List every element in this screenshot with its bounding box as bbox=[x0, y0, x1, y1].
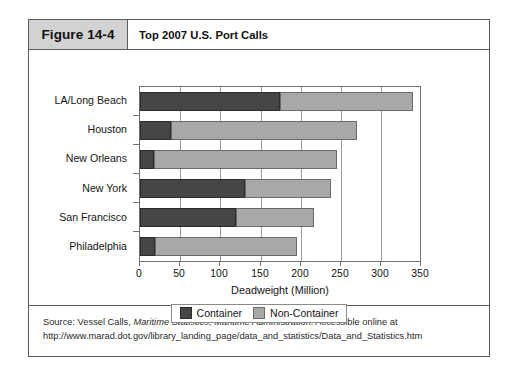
bar-segment-container bbox=[140, 237, 155, 256]
bar-segment-non-container bbox=[171, 121, 357, 140]
bar-row-new-orleans bbox=[140, 150, 420, 169]
bar-segment-non-container bbox=[245, 179, 331, 198]
y-axis-label-3: New York bbox=[29, 179, 134, 198]
y-axis-label-4: San Francisco bbox=[29, 208, 134, 227]
bar-rows bbox=[140, 87, 420, 261]
plot-frame bbox=[139, 86, 421, 261]
bar-segment-non-container bbox=[236, 208, 314, 227]
y-axis-label-0: LA/Long Beach bbox=[29, 91, 134, 110]
y-axis-labels: LA/Long Beach Houston New Orleans New Yo… bbox=[29, 86, 134, 261]
figure-title: Top 2007 U.S. Port Calls bbox=[128, 20, 489, 49]
bar-row-philadelphia bbox=[140, 237, 420, 256]
y-axis-label-1: Houston bbox=[29, 120, 134, 139]
legend-label-container: Container bbox=[197, 307, 243, 319]
legend-swatch-non-container-icon bbox=[253, 307, 265, 319]
bar-row-la-long-beach bbox=[140, 92, 420, 111]
figure-header: Figure 14-4 Top 2007 U.S. Port Calls bbox=[29, 20, 489, 50]
bar-segment-container bbox=[140, 121, 171, 140]
legend-item-non-container: Non-Container bbox=[253, 307, 338, 319]
y-axis-label-2: New Orleans bbox=[29, 149, 134, 168]
legend-item-container: Container bbox=[180, 307, 243, 319]
bar-row-new-york bbox=[140, 179, 420, 198]
bar-segment-container bbox=[140, 92, 280, 111]
bar-segment-non-container bbox=[154, 150, 337, 169]
chart-legend: Container Non-Container bbox=[29, 262, 489, 323]
bar-row-san-francisco bbox=[140, 208, 420, 227]
legend-label-non-container: Non-Container bbox=[270, 307, 338, 319]
y-axis-label-5: Philadelphia bbox=[29, 237, 134, 256]
bar-segment-container bbox=[140, 208, 236, 227]
figure-number-label: Figure 14-4 bbox=[29, 20, 128, 49]
chart-area: LA/Long Beach Houston New Orleans New Yo… bbox=[29, 50, 489, 305]
legend-swatch-container-icon bbox=[180, 307, 192, 319]
bar-segment-container bbox=[140, 150, 154, 169]
bar-row-houston bbox=[140, 121, 420, 140]
bar-segment-non-container bbox=[155, 237, 297, 256]
figure-container: Figure 14-4 Top 2007 U.S. Port Calls LA/… bbox=[28, 19, 490, 357]
bar-segment-container bbox=[140, 179, 245, 198]
bar-segment-non-container bbox=[280, 92, 413, 111]
